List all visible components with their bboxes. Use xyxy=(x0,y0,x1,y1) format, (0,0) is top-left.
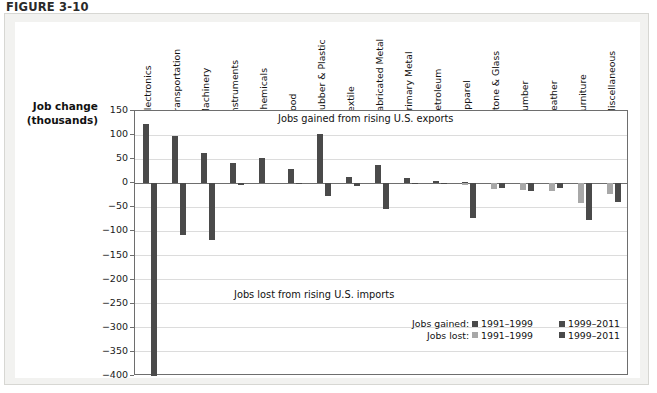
bar-lost-late xyxy=(180,183,186,235)
bar-lost-late xyxy=(441,183,447,184)
y-axis-tick-label: 100 xyxy=(94,129,128,139)
legend-swatch-gained-early xyxy=(472,321,478,327)
legend-entry-lost-late: 1999–2011 xyxy=(559,330,620,341)
bar-lost-early xyxy=(520,183,526,190)
bar-gained-early xyxy=(375,165,381,183)
bar-lost-late xyxy=(557,183,563,187)
legend-entry-gained-early: 1991–1999 xyxy=(472,318,533,329)
bar-lost-late xyxy=(238,183,244,184)
bar-lost-late xyxy=(151,183,157,376)
legend-swatch-lost-late xyxy=(559,332,565,338)
bar-gained-early xyxy=(433,181,439,183)
x-axis-category-label: Rubber & Plastic xyxy=(317,39,327,116)
legend-row-jobs-gained: Jobs gained: 1991–1999 1999–2011 xyxy=(412,318,620,329)
x-axis-category-label: Miscellaneous xyxy=(607,51,617,116)
y-axis-tick-label: 150 xyxy=(94,105,128,115)
legend-caption-gained: Jobs gained: xyxy=(412,318,469,329)
y-axis-tick-label: −50 xyxy=(94,201,128,211)
bar-lost-late xyxy=(325,183,331,196)
legend-label-lost-early: 1991–1999 xyxy=(481,330,533,341)
y-axis-tick-label: −250 xyxy=(94,298,128,308)
figure-root: FIGURE 3-10 Job change (thousands) 15010… xyxy=(0,0,657,393)
y-axis-tick-label: −100 xyxy=(94,225,128,235)
bar-lost-late xyxy=(615,183,621,201)
bar-lost-early xyxy=(491,183,497,188)
upper-band-annotation: Jobs gained from rising U.S. exports xyxy=(278,113,453,124)
gridline xyxy=(135,159,627,160)
y-axis-tick-label: 50 xyxy=(94,153,128,163)
bar-lost-late xyxy=(354,183,360,185)
x-axis-category-label: Transportation xyxy=(172,49,182,116)
bar-gained-early xyxy=(404,178,410,183)
y-axis-tick-label: −200 xyxy=(94,274,128,284)
lower-band-annotation: Jobs lost from rising U.S. imports xyxy=(234,289,394,300)
legend-label-gained-early: 1991–1999 xyxy=(481,318,533,329)
bar-lost-late xyxy=(470,183,476,218)
legend-swatch-gained-late xyxy=(559,321,565,327)
legend-row-jobs-lost: Jobs lost: 1991–1999 1999–2011 xyxy=(427,330,620,341)
bar-lost-early xyxy=(549,183,555,191)
bar-gained-early xyxy=(346,177,352,184)
legend-label-lost-late: 1999–2011 xyxy=(568,330,620,341)
x-axis-category-label: Primary Metal xyxy=(404,51,414,116)
bar-gained-early xyxy=(201,153,207,183)
bar-gained-early xyxy=(230,163,236,184)
bar-lost-early xyxy=(462,183,468,184)
bar-gained-early xyxy=(143,124,149,183)
x-axis-category-label: Machinery xyxy=(201,68,211,116)
legend-entry-gained-late: 1999–2011 xyxy=(559,318,620,329)
bar-gained-early xyxy=(172,136,178,183)
legend-swatch-lost-early xyxy=(472,332,478,338)
legend-caption-lost: Jobs lost: xyxy=(427,330,469,341)
bar-lost-late xyxy=(209,183,215,240)
y-axis-tick-label: −150 xyxy=(94,250,128,260)
gridline xyxy=(135,135,627,136)
gridline xyxy=(135,279,627,280)
x-axis-category-label: Chemicals xyxy=(259,68,269,116)
y-axis-tick-label: −350 xyxy=(94,346,128,356)
figure-number: FIGURE 3-10 xyxy=(6,0,89,14)
bar-lost-late xyxy=(296,183,302,184)
y-axis-title: Job change (thousands) xyxy=(6,99,98,127)
gridline xyxy=(135,303,627,304)
y-axis-tick-label: −300 xyxy=(94,322,128,332)
x-axis-category-label: Instruments xyxy=(230,60,240,116)
legend-entry-lost-early: 1991–1999 xyxy=(472,330,533,341)
bar-lost-late xyxy=(528,183,534,191)
bar-lost-late xyxy=(586,183,592,220)
y-axis-title-line2: (thousands) xyxy=(6,113,98,127)
legend-label-gained-late: 1999–2011 xyxy=(568,318,620,329)
x-axis-category-label: Stone & Glass xyxy=(491,51,501,116)
gridline xyxy=(135,351,627,352)
bar-lost-early xyxy=(578,183,584,202)
x-axis-category-label: Electronics xyxy=(143,65,153,116)
bar-lost-late xyxy=(499,183,505,188)
x-axis-category-label: Fabricated Metal xyxy=(375,39,385,116)
gridline xyxy=(135,255,627,256)
bar-gained-early xyxy=(259,158,265,183)
bar-lost-late xyxy=(412,183,418,184)
bar-lost-early xyxy=(607,183,613,194)
x-axis-category-label: Petroleum xyxy=(433,69,443,116)
bar-gained-early xyxy=(317,134,323,183)
bar-gained-early xyxy=(288,169,294,183)
bar-lost-late xyxy=(383,183,389,209)
y-axis-tick-label: 0 xyxy=(94,177,128,187)
y-axis-tick-label: −400 xyxy=(94,370,128,380)
y-axis-title-line1: Job change xyxy=(6,99,98,113)
y-axis-tick-mark xyxy=(130,375,134,376)
